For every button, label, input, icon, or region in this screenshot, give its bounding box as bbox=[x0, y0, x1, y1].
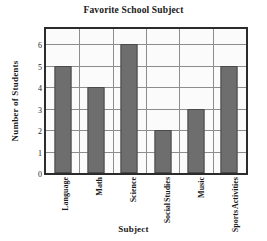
y-axis-tick-label: 4 bbox=[24, 84, 42, 93]
x-tick-slot: Math bbox=[78, 177, 112, 223]
x-tick-slot: SocialStudies bbox=[146, 177, 180, 223]
bar-slot bbox=[79, 29, 112, 173]
x-tick-slot: SportsActivities bbox=[214, 177, 248, 223]
x-axis-tick-label-line: Language bbox=[61, 177, 70, 211]
chart-title: Favorite School Subject bbox=[0, 5, 267, 15]
x-tick-slot: Science bbox=[112, 177, 146, 223]
x-axis-tick-label: Language bbox=[61, 177, 70, 211]
y-axis-tick-label: 0 bbox=[24, 170, 42, 179]
y-axis-tick-label: 6 bbox=[24, 41, 42, 50]
x-axis-tick-label-line: Social bbox=[163, 203, 172, 223]
bar-slot bbox=[179, 29, 212, 173]
x-axis-title: Subject bbox=[0, 224, 267, 234]
bar bbox=[121, 44, 138, 173]
y-axis-tick-labels: 6543210 bbox=[20, 28, 42, 174]
bar-slot bbox=[113, 29, 146, 173]
x-tick-slot: Music bbox=[180, 177, 214, 223]
y-axis-tick-label: 5 bbox=[24, 62, 42, 71]
bar-slot bbox=[46, 29, 79, 173]
bar bbox=[54, 66, 71, 173]
bar-series bbox=[46, 29, 246, 173]
bar-chart: Favorite School Subject Number of Studen… bbox=[0, 0, 267, 241]
bar bbox=[87, 87, 104, 173]
bar-slot bbox=[213, 29, 246, 173]
x-axis-tick-label-line: Studies bbox=[163, 177, 172, 202]
bar bbox=[154, 130, 171, 173]
y-axis-tick-label: 1 bbox=[24, 148, 42, 157]
x-tick-slot: Language bbox=[44, 177, 78, 223]
y-axis-tick-label: 3 bbox=[24, 105, 42, 114]
y-axis-title-text: Number of Students bbox=[10, 61, 20, 142]
bar bbox=[187, 109, 204, 173]
x-axis-tick-label: Music bbox=[197, 177, 206, 198]
x-axis-tick-label: Science bbox=[129, 177, 138, 202]
bar-slot bbox=[146, 29, 179, 173]
x-axis-tick-labels: LanguageMathScienceSocialStudiesMusicSpo… bbox=[44, 177, 248, 223]
x-axis-tick-label-line: Science bbox=[129, 177, 138, 202]
x-axis-tick-label-line: Math bbox=[95, 177, 104, 196]
x-axis-tick-label-line: Activities bbox=[231, 177, 240, 209]
x-axis-tick-label-line: Music bbox=[197, 177, 206, 198]
y-axis-tick-label: 2 bbox=[24, 127, 42, 136]
bar bbox=[221, 66, 238, 173]
x-axis-tick-label: Math bbox=[95, 177, 104, 196]
plot-area bbox=[44, 27, 248, 175]
x-axis-tick-label: SocialStudies bbox=[163, 177, 172, 223]
